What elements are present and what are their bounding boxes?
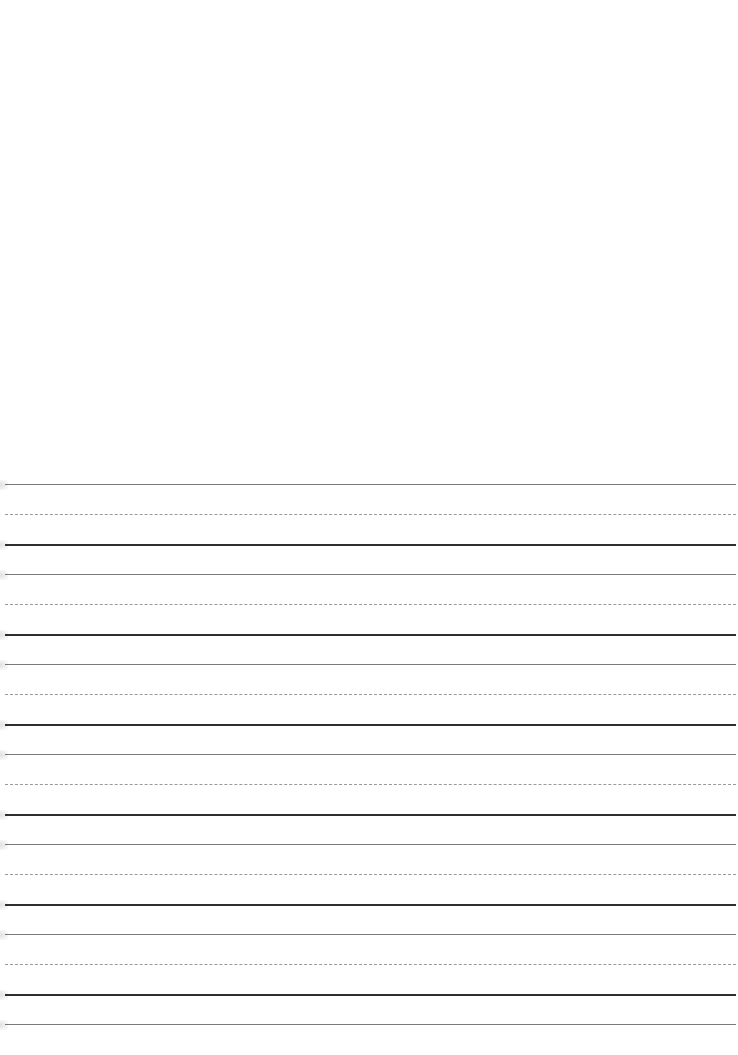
top-line [5,574,736,575]
mid-dashed-line [5,874,736,875]
edge-shadow [0,570,8,580]
edge-shadow [0,480,8,490]
mid-dashed-line [5,604,736,605]
edge-shadow [0,930,8,940]
edge-shadow [0,750,8,760]
baseline [5,904,736,906]
blank-drawing-area [0,0,738,470]
top-line [5,934,736,935]
edge-shadow [0,720,8,730]
mid-dashed-line [5,694,736,695]
baseline [5,814,736,816]
mid-dashed-line [5,784,736,785]
practice-sheet [0,0,738,1055]
edge-shadow [0,1020,8,1030]
baseline [5,724,736,726]
baseline [5,634,736,636]
edge-shadow [0,840,8,850]
top-line [5,484,736,485]
baseline [5,544,736,546]
top-line [5,664,736,665]
mid-dashed-line [5,514,736,515]
edge-shadow [0,630,8,640]
edge-shadow [0,540,8,550]
baseline [5,994,736,996]
top-line [5,1024,736,1025]
edge-shadow [0,990,8,1000]
top-line [5,844,736,845]
edge-shadow [0,900,8,910]
top-line [5,754,736,755]
edge-shadow [0,660,8,670]
mid-dashed-line [5,964,736,965]
edge-shadow [0,810,8,820]
